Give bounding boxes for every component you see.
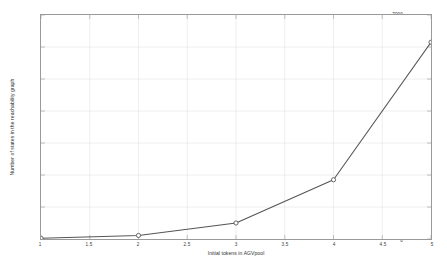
x-tick-label: 2.5 [184,242,191,247]
x-tick-label: 4.5 [380,242,387,247]
plot-axes [40,14,432,240]
x-axis-title: Initial tokens in AGVpool [40,250,432,256]
x-tick-label: 3 [235,242,238,247]
data-point [331,178,335,182]
data-series-layer [41,15,431,239]
plot-surface [41,15,431,239]
y-axis-title: Number of states in the reachability gra… [9,79,15,176]
x-tick-label: 4 [333,242,336,247]
chart-figure: 01000200030004000500060007000 11.522.533… [0,0,447,271]
data-point [136,233,140,237]
x-tick-label: 5 [431,242,434,247]
data-point [234,221,238,225]
y-axis-title-wrapper: Number of states in the reachability gra… [10,0,22,254]
data-point [429,40,431,44]
x-tick-label: 1.5 [86,242,93,247]
x-tick-label: 1 [39,242,42,247]
data-point [41,236,43,239]
x-tick-label: 3.5 [282,242,289,247]
x-tick-label: 2 [137,242,140,247]
series-states [41,40,431,239]
